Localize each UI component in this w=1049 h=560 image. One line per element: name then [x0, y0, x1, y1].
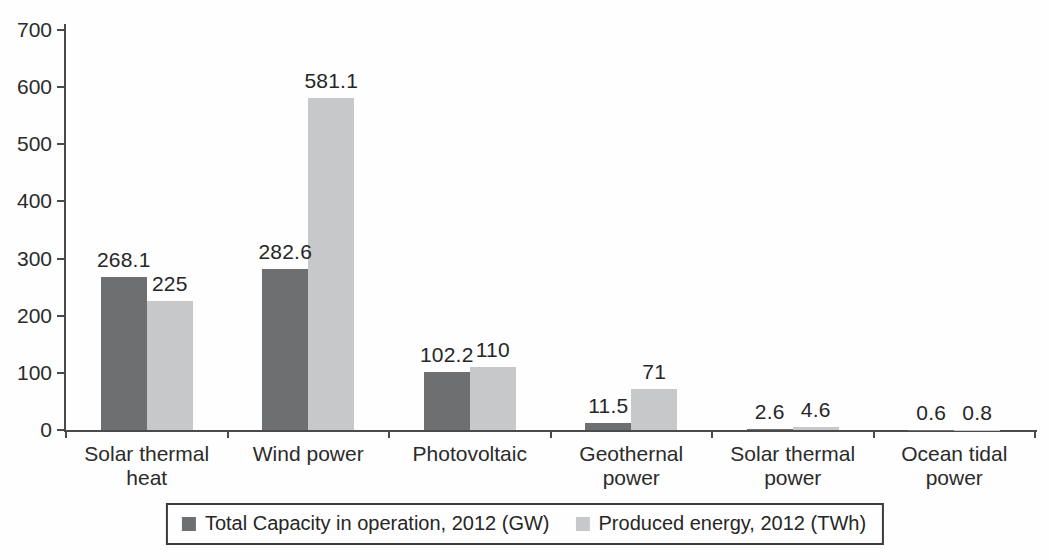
- value-label: 110: [433, 338, 553, 362]
- value-label: 225: [110, 272, 230, 296]
- x-tickmark: [388, 430, 390, 438]
- bar-chart: 0100200300400500600700 268.1225282.6581.…: [0, 0, 1049, 560]
- x-tickmark: [227, 430, 229, 438]
- bar-capacity: [101, 277, 147, 430]
- legend: Total Capacity in operation, 2012 (GW) P…: [166, 503, 884, 545]
- category-label: Solar thermal power: [718, 442, 868, 490]
- bar-capacity: [262, 269, 308, 430]
- y-tick-label: 700: [0, 19, 52, 41]
- legend-swatch-capacity: [182, 517, 196, 531]
- bar-energy: [793, 427, 839, 430]
- value-label: 11.5: [548, 394, 668, 418]
- y-tickmark: [57, 86, 64, 88]
- x-tickmark: [1034, 430, 1036, 438]
- legend-label-capacity: Total Capacity in operation, 2012 (GW): [205, 512, 550, 535]
- category-label: Geothernal power: [556, 442, 706, 490]
- bar-energy: [470, 367, 516, 430]
- y-axis-line: [64, 24, 66, 432]
- category-label: Wind power: [233, 442, 383, 466]
- legend-item-capacity: Total Capacity in operation, 2012 (GW): [182, 512, 550, 535]
- legend-item-energy: Produced energy, 2012 (TWh): [576, 512, 867, 535]
- category-label: Photovoltaic: [395, 442, 545, 466]
- y-tick-label: 300: [0, 248, 52, 270]
- legend-swatch-energy: [576, 517, 590, 531]
- y-tickmark: [57, 429, 64, 431]
- category-label: Solar thermal heat: [72, 442, 222, 490]
- value-label: 282.6: [225, 240, 345, 264]
- bar-capacity: [747, 429, 793, 430]
- y-tick-label: 600: [0, 76, 52, 98]
- y-tickmark: [57, 200, 64, 202]
- y-tickmark: [57, 315, 64, 317]
- bar-energy: [308, 98, 354, 430]
- bar-energy: [147, 301, 193, 430]
- y-tick-label: 0: [0, 419, 52, 441]
- y-tickmark: [57, 29, 64, 31]
- value-label: 71: [594, 360, 714, 384]
- y-tick-label: 400: [0, 190, 52, 212]
- x-tickmark: [550, 430, 552, 438]
- x-tickmark: [873, 430, 875, 438]
- x-tickmark: [65, 430, 67, 438]
- y-tick-label: 500: [0, 133, 52, 155]
- value-label: 581.1: [271, 69, 391, 93]
- bar-capacity: [424, 372, 470, 430]
- x-tickmark: [711, 430, 713, 438]
- value-label: 4.6: [756, 398, 876, 422]
- bar-capacity: [585, 423, 631, 430]
- y-tick-label: 200: [0, 305, 52, 327]
- value-label: 0.8: [917, 401, 1037, 425]
- legend-label-energy: Produced energy, 2012 (TWh): [599, 512, 867, 535]
- y-tickmark: [57, 372, 64, 374]
- y-tick-label: 100: [0, 362, 52, 384]
- y-tickmark: [57, 143, 64, 145]
- category-label: Ocean tidal power: [879, 442, 1029, 490]
- plot-area: 0100200300400500600700 268.1225282.6581.…: [0, 0, 1049, 560]
- value-label: 268.1: [64, 248, 184, 272]
